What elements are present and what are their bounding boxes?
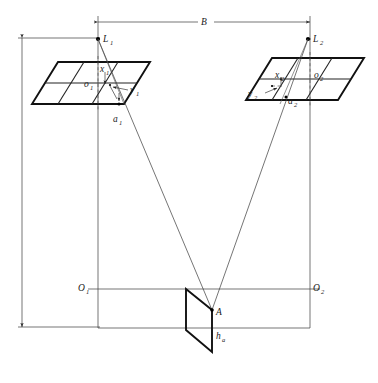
- left-exposure-station-label: L: [102, 34, 108, 44]
- left-ground-origin-subscript: 1: [86, 288, 89, 295]
- ground-height-subscript: a: [222, 336, 225, 343]
- right-ground-origin-label: O: [313, 283, 320, 293]
- ground-point-label: A: [215, 307, 222, 317]
- right-principal-point-label: o: [314, 70, 319, 80]
- left-principal-point-subscript: 1: [90, 84, 93, 91]
- left-a1-projection-dot: [109, 84, 111, 86]
- ground-object-group: [186, 289, 212, 352]
- left-a1-offset-connector: [110, 86, 117, 99]
- photogrammetry-figure: B L 1 L 2 x 1 o 1 y 1 a 1 x 2 o 2 y 2 a …: [0, 0, 378, 383]
- left-light-ray: [98, 39, 212, 310]
- left-image-point-label: a: [113, 114, 118, 124]
- ground-point-marker: [210, 308, 214, 312]
- right-exposure-station-subscript: 2: [320, 39, 324, 46]
- diagram-canvas: B L 1 L 2 x 1 o 1 y 1 a 1 x 2 o 2 y 2 a …: [0, 0, 378, 383]
- ground-height-label: h: [216, 331, 221, 341]
- base-dimension-label: B: [201, 17, 207, 27]
- left-image-point-marker: [118, 103, 121, 106]
- right-y-coordinate-arrow: [265, 88, 277, 93]
- right-image-point-subscript: 2: [294, 101, 298, 108]
- left-image-point-subscript: 1: [119, 119, 122, 126]
- right-a2-projection-dot: [271, 85, 273, 87]
- right-x-coordinate-label: x: [274, 70, 280, 80]
- left-x-coordinate-subscript: 1: [106, 69, 109, 76]
- left-ground-origin-label: O: [78, 283, 85, 293]
- right-image-point-label: a: [288, 96, 293, 106]
- right-exposure-station-label: L: [312, 34, 318, 44]
- left-y-coordinate-subscript: 1: [136, 90, 139, 97]
- right-ground-origin-subscript: 2: [321, 288, 325, 295]
- right-light-ray: [212, 39, 308, 310]
- left-exposure-station-subscript: 1: [110, 39, 113, 46]
- right-y-coordinate-label: y: [247, 89, 253, 99]
- left-y-coordinate-arrow: [113, 87, 128, 90]
- right-photo-plane-group: [246, 52, 364, 108]
- ground-object-outline: [186, 289, 212, 352]
- left-principal-point-label: o: [84, 79, 89, 89]
- right-ray-upper-segment: [280, 39, 308, 104]
- left-x-coordinate-label: x: [99, 64, 105, 74]
- left-y-coordinate-label: y: [129, 85, 135, 95]
